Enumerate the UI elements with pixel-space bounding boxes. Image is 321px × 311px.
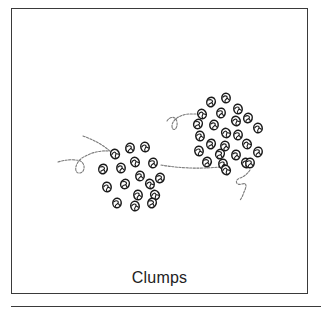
- separator-line: [11, 306, 321, 307]
- bead-icon: [129, 156, 141, 168]
- bead-icon: [97, 163, 108, 175]
- bead-icon: [155, 172, 166, 184]
- bead-icon: [130, 200, 141, 211]
- right-clump: [192, 93, 263, 176]
- figure-caption: Clumps: [11, 269, 308, 287]
- bead-icon: [233, 103, 243, 114]
- bead-icon: [125, 143, 135, 154]
- bead-icon: [192, 118, 204, 130]
- bead-icon: [196, 108, 208, 120]
- bead-icon: [220, 127, 232, 139]
- bead-icon: [210, 120, 219, 130]
- bead-icon: [194, 146, 204, 157]
- bead-icon: [205, 138, 216, 150]
- bead-icon: [202, 156, 213, 168]
- bead-icon: [144, 178, 155, 190]
- connecting-thread: [161, 165, 220, 168]
- bead-icon: [102, 181, 112, 192]
- bead-icon: [253, 122, 264, 133]
- bead-icon: [216, 107, 226, 118]
- bead-icon: [109, 148, 121, 161]
- bead-icon: [136, 171, 145, 181]
- bead-icon: [233, 130, 243, 141]
- bead-icon: [245, 158, 255, 169]
- left-clump: [97, 141, 165, 211]
- bead-icon: [117, 163, 126, 173]
- bead-icon: [222, 93, 231, 103]
- bead-icon: [243, 112, 254, 124]
- bead-icon: [195, 131, 204, 141]
- bead-icon: [133, 190, 142, 200]
- bead-icon: [253, 146, 263, 157]
- bead-icon: [140, 141, 151, 153]
- bead-icon: [231, 150, 240, 160]
- bead-icon: [119, 178, 131, 190]
- bead-icon: [112, 198, 122, 209]
- clumps-illustration: [0, 0, 321, 311]
- bead-icon: [205, 96, 216, 108]
- bead-icon: [230, 115, 241, 127]
- bead-icon: [241, 138, 253, 150]
- left-upper-thread: [83, 136, 111, 152]
- bead-icon: [148, 157, 158, 168]
- right-lower-loop-thread: [236, 170, 250, 200]
